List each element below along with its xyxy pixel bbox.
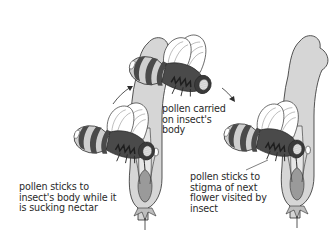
pointer-line-stigma [246,160,268,170]
caption-feeding: pollen sticks to insect's body while it … [19,182,116,214]
caption-line: insect [190,204,267,215]
caption-line: pollen sticks to [19,182,116,193]
caption-line: pollen sticks to [190,172,267,183]
arrow-feeding-to-flying [113,86,133,104]
caption-line: pollen carried [162,104,226,115]
arrow-flying-to-pollinating [222,88,235,102]
caption-line: body [162,125,226,136]
caption-pollinating: pollen sticks to stigma of next flower v… [190,172,267,214]
caption-flying: pollen carried on insect's body [162,104,226,136]
caption-line: is sucking nectar [19,203,116,214]
